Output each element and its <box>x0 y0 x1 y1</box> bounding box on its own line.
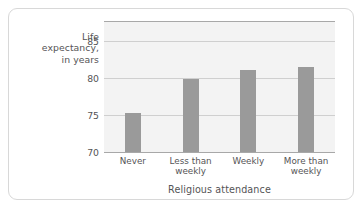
gridline-85 <box>104 41 335 42</box>
y-axis-title-line-3: in years <box>19 54 99 65</box>
x-category-label-0-line-0: Never <box>103 156 163 166</box>
x-category-label-3: More thanweekly <box>276 156 336 176</box>
plot-area: 70758085NeverLess thanweeklyWeeklyMore t… <box>104 21 335 153</box>
x-category-label-1-line-1: weekly <box>161 166 221 176</box>
x-category-label-3-line-1: weekly <box>276 166 336 176</box>
bar-3 <box>298 67 314 152</box>
x-category-label-1-line-0: Less than <box>161 156 221 166</box>
chart-card: Life expectancy, in years 70758085NeverL… <box>8 8 354 200</box>
bar-0 <box>125 113 141 152</box>
x-category-label-3-line-0: More than <box>276 156 336 166</box>
x-category-label-2: Weekly <box>218 156 278 166</box>
y-tick-label-80: 80 <box>87 72 99 83</box>
bar-1 <box>183 79 199 152</box>
y-tick-label-70: 70 <box>87 147 99 158</box>
x-category-label-2-line-0: Weekly <box>218 156 278 166</box>
bar-2 <box>240 70 256 152</box>
x-category-label-0: Never <box>103 156 163 166</box>
x-category-label-1: Less thanweekly <box>161 156 221 176</box>
y-tick-label-85: 85 <box>87 35 99 46</box>
y-tick-label-75: 75 <box>87 109 99 120</box>
x-axis-title: Religious attendance <box>104 184 335 195</box>
